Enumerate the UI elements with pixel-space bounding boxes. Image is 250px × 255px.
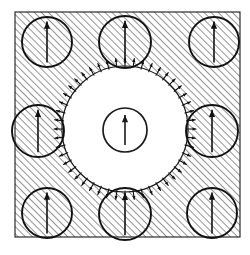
magnetic-domain-diagram (0, 0, 250, 255)
diagram-canvas (0, 0, 250, 255)
